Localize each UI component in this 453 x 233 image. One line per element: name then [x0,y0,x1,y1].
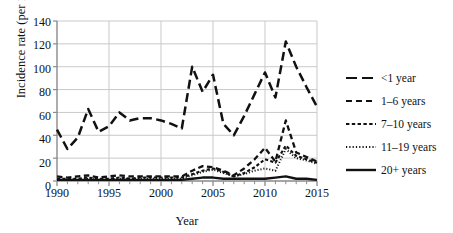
legend-item-20plusyears: 20+ years [345,158,453,181]
legend-swatch-medium-dash [345,96,377,106]
legend-label: 11–19 years [381,141,436,153]
chart-figure: Incidence rate (per 100,000) 140 120 100… [0,0,453,233]
legend-item-lt1year: <1 year [345,66,453,89]
legend-item-7-10years: 7–10 years [345,112,453,135]
legend-swatch-solid [345,165,377,175]
legend-label: <1 year [381,72,416,84]
chart-legend: <1 year 1–6 years 7–10 years 11–19 years… [345,66,453,181]
legend-label: 20+ years [381,164,426,176]
legend-item-1-6years: 1–6 years [345,89,453,112]
legend-item-11-19years: 11–19 years [345,135,453,158]
legend-swatch-short-dash [345,119,377,129]
legend-label: 7–10 years [381,118,431,130]
legend-swatch-long-dash [345,73,377,83]
legend-label: 1–6 years [381,95,425,107]
legend-swatch-dotted [345,142,377,152]
series-line-0 [57,42,317,149]
